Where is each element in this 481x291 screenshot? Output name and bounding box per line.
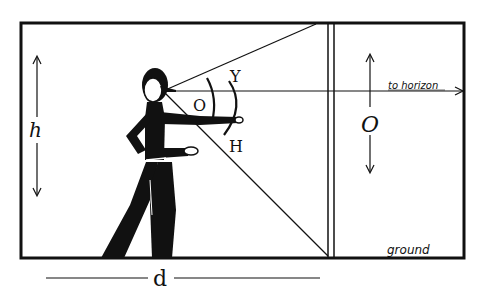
angle-h-label: H <box>229 137 243 156</box>
object-size-dimension: O <box>361 54 379 173</box>
sight-lines <box>163 24 464 256</box>
height-label: h <box>29 118 42 142</box>
distant-wall <box>328 23 334 258</box>
object-size-label: O <box>361 112 379 137</box>
inner-arc <box>207 78 214 122</box>
angle-y-label: Y <box>229 67 241 86</box>
ground-label: ground <box>387 243 430 257</box>
height-dimension: h <box>29 56 42 196</box>
observer-figure <box>101 68 243 258</box>
angle-o-label: O <box>193 96 206 115</box>
distance-label: d <box>153 266 167 291</box>
angular-measurement-diagram: h O O Y H to horizon ground d <box>0 0 481 291</box>
horizon-label: to horizon <box>388 80 438 91</box>
angle-arcs <box>207 78 236 135</box>
outer-arc <box>224 81 236 135</box>
distance-dimension: d <box>46 266 320 291</box>
